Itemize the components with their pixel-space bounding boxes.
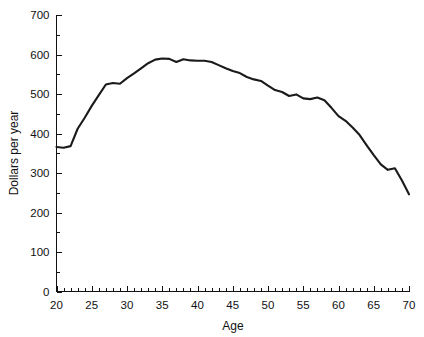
x-tick-label: 35 xyxy=(156,299,169,311)
x-tick-label: 40 xyxy=(191,299,204,311)
x-tick-label: 30 xyxy=(121,299,134,311)
x-tick-label: 55 xyxy=(297,299,310,311)
chart-figure: 0100200300400500600700 20253035404550556… xyxy=(0,0,424,337)
x-tick-label: 70 xyxy=(403,299,416,311)
y-axis-title: Dollars per year xyxy=(7,111,21,196)
y-tick-label: 100 xyxy=(30,246,49,258)
x-axis-title: Age xyxy=(222,319,244,333)
y-tick-label: 300 xyxy=(30,167,49,179)
x-tick-label: 45 xyxy=(226,299,239,311)
y-tick-label: 600 xyxy=(30,49,49,61)
figure-background xyxy=(0,0,424,337)
y-tick-label: 500 xyxy=(30,88,49,100)
y-tick-label: 200 xyxy=(30,207,49,219)
x-tick-label: 60 xyxy=(332,299,345,311)
y-tick-label: 700 xyxy=(30,9,49,21)
x-tick-label: 20 xyxy=(50,299,63,311)
line-chart-plot: 0100200300400500600700 20253035404550556… xyxy=(0,0,424,337)
y-tick-label: 400 xyxy=(30,128,49,140)
x-tick-label: 50 xyxy=(262,299,275,311)
x-tick-label: 25 xyxy=(85,299,98,311)
y-tick-label: 0 xyxy=(43,286,49,298)
x-tick-label: 65 xyxy=(367,299,380,311)
